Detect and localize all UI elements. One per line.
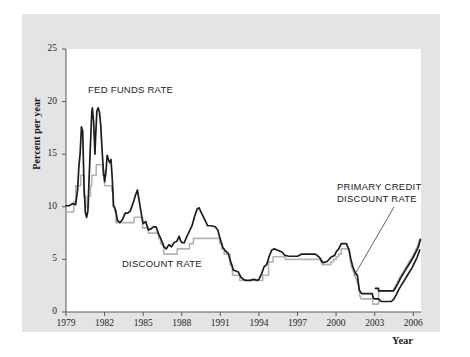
x-tick-marks (66, 312, 413, 316)
x-tick-label: 1997 (278, 318, 318, 328)
y-axis-title: Percent per year (31, 74, 42, 194)
x-tick-label: 1991 (200, 318, 240, 328)
annotation-fed-funds-rate: FED FUNDS RATE (88, 84, 173, 96)
annotation-discount-rate: DISCOUNT RATE (122, 258, 202, 270)
annotation-primary-credit-discount-rate: PRIMARY CREDIT DISCOUNT RATE (337, 181, 437, 205)
chart-figure: 0510152025 19791982198519881991199419972… (0, 0, 470, 357)
primary-credit-leader-line (354, 207, 394, 276)
data-series-layer (66, 108, 420, 304)
y-tick-label: 0 (35, 306, 57, 316)
y-tick-marks (62, 49, 66, 312)
y-tick-label: 10 (35, 201, 57, 211)
x-tick-label: 2006 (393, 318, 433, 328)
x-tick-label: 1979 (46, 318, 86, 328)
x-tick-label: 1994 (239, 318, 279, 328)
x-tick-label: 1985 (123, 318, 163, 328)
x-tick-label: 1982 (85, 318, 125, 328)
chart-svg (0, 0, 470, 357)
y-tick-label: 5 (35, 253, 57, 263)
x-axis-title: Year (392, 335, 413, 346)
annotation-primary-credit-line2: DISCOUNT RATE (337, 193, 417, 204)
x-tick-label: 1988 (162, 318, 202, 328)
annotation-primary-credit-line1: PRIMARY CREDIT (337, 181, 421, 192)
x-tick-label: 2003 (355, 318, 395, 328)
y-tick-label: 25 (35, 43, 57, 53)
x-tick-label: 2000 (316, 318, 356, 328)
